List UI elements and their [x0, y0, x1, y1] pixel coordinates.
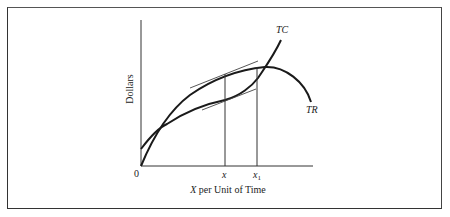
tc-curve — [141, 40, 281, 149]
tr-curve — [141, 67, 311, 166]
tc-tangent-line — [202, 89, 256, 110]
tr-tangent-line — [190, 61, 258, 88]
x-axis-label: X per Unit of Time — [189, 184, 266, 195]
tr-curve-label: TR — [306, 104, 318, 115]
diagram-canvas: Dollars 0 x x1 X per Unit of Time TC TR — [0, 0, 450, 217]
y-axis-label: Dollars — [124, 74, 135, 104]
x-tick-label: x — [221, 169, 227, 180]
origin-label: 0 — [134, 168, 139, 179]
tc-curve-label: TC — [276, 24, 289, 35]
x1-tick-label: x1 — [252, 169, 261, 182]
